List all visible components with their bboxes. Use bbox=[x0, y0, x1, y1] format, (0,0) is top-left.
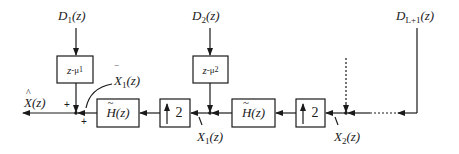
d2-label: D2(z) bbox=[192, 9, 220, 25]
filter-h1-label: ~H(z) bbox=[97, 99, 139, 127]
x2-label: X2(z) bbox=[334, 130, 360, 146]
xbar1-label: ‾X1(z) bbox=[114, 74, 140, 90]
d1-label: D1(z) bbox=[58, 9, 86, 25]
x1-tick bbox=[199, 117, 202, 125]
delay1-label: z-μ1 bbox=[57, 56, 93, 83]
sum-junction-2 bbox=[208, 111, 212, 115]
upsampler1-factor: 2 bbox=[170, 99, 188, 127]
plus-sign-bottom: + bbox=[81, 117, 87, 127]
plus-sign-top: + bbox=[64, 100, 70, 110]
sum-junction-1 bbox=[74, 111, 78, 115]
delay2-label: z-μ2 bbox=[193, 56, 228, 83]
x2-tick bbox=[335, 117, 338, 125]
x1-label: X1(z) bbox=[197, 130, 223, 146]
dl1-label: DL+1(z) bbox=[396, 9, 434, 25]
filter-h2-label: ~H(z) bbox=[232, 99, 275, 127]
output-label: ^X(z) bbox=[24, 96, 46, 109]
sum-junction-3 bbox=[344, 111, 348, 115]
upsampler2-factor: 2 bbox=[306, 99, 324, 127]
